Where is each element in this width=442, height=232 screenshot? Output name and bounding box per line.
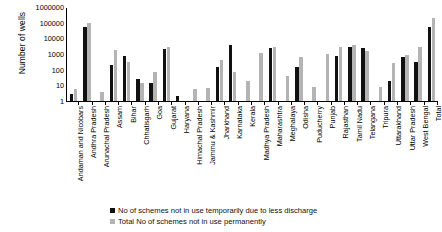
- bar-group[interactable]: [319, 8, 332, 101]
- bar-series1[interactable]: [401, 57, 404, 101]
- bar-group[interactable]: [412, 8, 425, 101]
- bar-group[interactable]: [186, 8, 199, 101]
- bar-series2[interactable]: [299, 57, 302, 101]
- y-axis-tick-label: 1000: [48, 51, 64, 58]
- bar-series1[interactable]: [229, 45, 232, 101]
- x-axis-tick-mark: [93, 101, 106, 105]
- y-axis-tick-label: 10000: [44, 36, 64, 43]
- bar-group[interactable]: [359, 8, 372, 101]
- bar-series2[interactable]: [432, 18, 435, 101]
- x-axis-tick-mark: [106, 101, 119, 105]
- bar-series1[interactable]: [335, 56, 338, 101]
- bar-series1[interactable]: [70, 94, 73, 101]
- bar-group[interactable]: [80, 8, 93, 101]
- bar-series2[interactable]: [167, 47, 170, 101]
- bar-series1[interactable]: [414, 62, 417, 101]
- bar-series2[interactable]: [220, 60, 223, 101]
- bar-series1[interactable]: [388, 81, 391, 101]
- bar-series2[interactable]: [127, 62, 130, 101]
- bar-series2[interactable]: [246, 81, 249, 101]
- bar-series2[interactable]: [326, 54, 329, 101]
- x-axis-label-cell: West Bengal: [411, 106, 424, 192]
- x-axis-tick-mark: [199, 101, 212, 105]
- bar-group[interactable]: [306, 8, 319, 101]
- x-axis-tick-mark: [358, 101, 371, 105]
- bar-group[interactable]: [147, 8, 160, 101]
- bar-group[interactable]: [226, 8, 239, 101]
- bar-series2[interactable]: [286, 76, 289, 101]
- bar-group[interactable]: [120, 8, 133, 101]
- bar-group[interactable]: [213, 8, 226, 101]
- bar-group[interactable]: [200, 8, 213, 101]
- x-axis-tick-mark: [411, 101, 424, 105]
- bar-series2[interactable]: [87, 23, 90, 101]
- bar-group[interactable]: [425, 8, 438, 101]
- bar-group[interactable]: [385, 8, 398, 101]
- y-axis-tick-label: 1: [60, 98, 64, 105]
- x-axis-tick-mark: [172, 101, 185, 105]
- bar-group[interactable]: [133, 8, 146, 101]
- x-axis-label-cell: Arunachal Pradesh: [93, 106, 106, 192]
- legend: No of schemes not in use temporarily due…: [110, 205, 430, 227]
- bar-group[interactable]: [239, 8, 252, 101]
- bar-group[interactable]: [398, 8, 411, 101]
- x-axis-tick-mark: [385, 101, 398, 105]
- bar-series2[interactable]: [379, 87, 382, 101]
- bar-group[interactable]: [173, 8, 186, 101]
- x-axis-label-cell: Madhya Pradesh: [252, 106, 265, 192]
- bar-series2[interactable]: [206, 88, 209, 101]
- y-axis-tick-label: 1000000: [36, 4, 64, 11]
- bar-series1[interactable]: [295, 67, 298, 101]
- bar-series2[interactable]: [352, 45, 355, 101]
- bar-group[interactable]: [345, 8, 358, 101]
- bar-series1[interactable]: [428, 27, 431, 101]
- bar-series2[interactable]: [273, 47, 276, 101]
- bar-series2[interactable]: [312, 87, 315, 101]
- bar-series2[interactable]: [74, 89, 77, 101]
- x-axis-label-cell: Meghalaya: [279, 106, 292, 192]
- x-axis-label-cell: Tamil Nadu: [345, 106, 358, 192]
- x-axis-tick-mark: [252, 101, 265, 105]
- bar-group[interactable]: [67, 8, 80, 101]
- bar-series2[interactable]: [140, 83, 143, 101]
- bar-series1[interactable]: [163, 49, 166, 101]
- bar-series2[interactable]: [418, 47, 421, 101]
- legend-entry-series1: No of schemes not in use temporarily due…: [110, 205, 430, 216]
- bar-group[interactable]: [292, 8, 305, 101]
- bar-series2[interactable]: [392, 63, 395, 101]
- bar-series1[interactable]: [348, 47, 351, 101]
- bar-series1[interactable]: [83, 27, 86, 101]
- bar-series2[interactable]: [153, 72, 156, 101]
- bar-group[interactable]: [372, 8, 385, 101]
- bar-group[interactable]: [279, 8, 292, 101]
- bar-series1[interactable]: [149, 83, 152, 101]
- bar-series1[interactable]: [269, 48, 272, 101]
- bar-group[interactable]: [94, 8, 107, 101]
- x-axis-category-labels: Andaman and NicobarsAndhra PradeshArunac…: [66, 106, 438, 192]
- x-axis-tick-mark: [146, 101, 159, 105]
- bar-series2[interactable]: [233, 72, 236, 101]
- x-axis-label-cell: Gujarat: [159, 106, 172, 192]
- bar-group[interactable]: [332, 8, 345, 101]
- bar-series2[interactable]: [100, 92, 103, 101]
- bar-group[interactable]: [107, 8, 120, 101]
- x-axis-tick-mark: [225, 101, 238, 105]
- bar-series1[interactable]: [216, 67, 219, 101]
- bar-series2[interactable]: [365, 51, 368, 101]
- bar-group[interactable]: [160, 8, 173, 101]
- bar-series2[interactable]: [259, 53, 262, 101]
- bar-series1[interactable]: [361, 48, 364, 101]
- bar-series1[interactable]: [123, 56, 126, 101]
- x-axis-tick-mark: [318, 101, 331, 105]
- x-axis-label-cell: Andaman and Nicobars: [66, 106, 79, 192]
- legend-label: No of schemes not in use temporarily due…: [118, 207, 317, 215]
- bar-group[interactable]: [266, 8, 279, 101]
- bar-group[interactable]: [253, 8, 266, 101]
- bar-series2[interactable]: [193, 89, 196, 101]
- bar-series2[interactable]: [405, 55, 408, 101]
- x-axis-label-cell: Punjab: [318, 106, 331, 192]
- bar-series1[interactable]: [136, 79, 139, 101]
- bar-series1[interactable]: [110, 65, 113, 101]
- bar-series2[interactable]: [339, 47, 342, 101]
- bar-series2[interactable]: [114, 50, 117, 101]
